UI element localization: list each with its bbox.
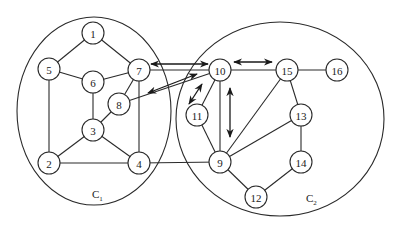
cluster-c2-label: C2 <box>306 192 317 207</box>
double-arrow-8-10-icon <box>148 74 197 93</box>
node-12: 12 <box>245 186 267 208</box>
node-6: 6 <box>82 71 104 93</box>
node-4-label: 4 <box>136 158 142 170</box>
node-2-label: 2 <box>46 158 52 170</box>
node-8-label: 8 <box>116 99 122 111</box>
node-15-label: 15 <box>282 65 294 77</box>
cluster-graph-diagram: 15678324101516111391412 C1C2 <box>0 0 396 227</box>
node-3: 3 <box>82 119 104 141</box>
node-13-label: 13 <box>296 110 308 122</box>
cluster-c1-boundary <box>17 17 171 205</box>
node-14-label: 14 <box>296 157 308 169</box>
node-6-label: 6 <box>90 77 96 89</box>
node-3-label: 3 <box>90 125 96 137</box>
node-7-label: 7 <box>136 65 142 77</box>
node-16-label: 16 <box>332 65 344 77</box>
node-16: 16 <box>326 59 348 81</box>
edge-13-9 <box>220 115 301 162</box>
node-1-label: 1 <box>90 28 96 40</box>
node-1: 1 <box>82 22 104 44</box>
cluster-c1-label: C1 <box>92 188 103 203</box>
node-13: 13 <box>290 104 312 126</box>
cluster-labels: C1C2 <box>92 188 317 207</box>
node-8: 8 <box>108 93 130 115</box>
node-7: 7 <box>128 59 150 81</box>
node-15: 15 <box>276 59 298 81</box>
nodes: 15678324101516111391412 <box>38 22 348 208</box>
node-9: 9 <box>209 151 231 173</box>
double-arrow-10-11-icon <box>189 84 202 104</box>
node-11-label: 11 <box>192 110 203 122</box>
node-2: 2 <box>38 152 60 174</box>
node-10-label: 10 <box>215 65 227 77</box>
node-5: 5 <box>38 58 60 80</box>
node-10: 10 <box>209 59 231 81</box>
node-14: 14 <box>290 151 312 173</box>
node-12-label: 12 <box>251 192 262 204</box>
node-11: 11 <box>186 104 208 126</box>
node-5-label: 5 <box>46 64 52 76</box>
edge-4-9 <box>139 162 220 163</box>
node-4: 4 <box>128 152 150 174</box>
node-9-label: 9 <box>217 157 223 169</box>
